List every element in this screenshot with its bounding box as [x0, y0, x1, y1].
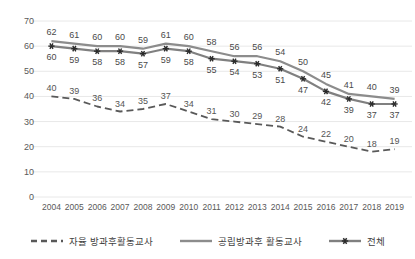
y-axis-tick-label: 40	[10, 91, 34, 101]
data-point-label: 40	[41, 83, 61, 93]
legend-label: 공립방과후 활동교사	[218, 234, 302, 248]
legend-swatch-icon	[30, 235, 64, 247]
series-marker	[94, 48, 100, 53]
data-point-label: 59	[133, 35, 153, 45]
data-point-label: 24	[293, 124, 313, 134]
series-marker	[48, 43, 54, 48]
data-point-label: 47	[293, 85, 313, 95]
data-point-label: 60	[41, 52, 61, 62]
series-marker	[254, 61, 260, 66]
series-marker	[163, 46, 169, 51]
series-marker	[391, 101, 397, 106]
data-point-label: 57	[133, 60, 153, 70]
legend-item[interactable]: 자율 방과후활동교사	[30, 234, 153, 248]
legend-label: 자율 방과후활동교사	[69, 234, 153, 248]
data-point-label: 18	[362, 139, 382, 149]
y-axis-tick-label: 20	[10, 142, 34, 152]
y-axis-tick-label: 10	[10, 167, 34, 177]
series-marker	[71, 46, 77, 51]
y-axis-tick-label: 30	[10, 117, 34, 127]
data-point-label: 39	[64, 86, 84, 96]
legend-swatch-icon	[328, 235, 362, 247]
data-point-label: 62	[41, 27, 61, 37]
series-line	[51, 41, 394, 99]
y-axis-tick-label: 60	[10, 41, 34, 51]
data-point-label: 39	[385, 85, 405, 95]
data-point-label: 22	[316, 129, 336, 139]
data-point-label: 39	[339, 105, 359, 115]
data-point-label: 51	[270, 75, 290, 85]
data-point-label: 34	[110, 99, 130, 109]
data-point-label: 53	[247, 70, 267, 80]
data-point-label: 28	[270, 114, 290, 124]
series-marker	[231, 59, 237, 64]
legend-swatch-icon	[179, 235, 213, 247]
data-point-label: 37	[156, 91, 176, 101]
data-point-label: 29	[247, 111, 267, 121]
data-point-label: 31	[202, 106, 222, 116]
data-point-label: 56	[224, 42, 244, 52]
data-point-label: 34	[179, 99, 199, 109]
data-point-label: 61	[156, 30, 176, 40]
data-point-label: 35	[133, 96, 153, 106]
data-point-label: 60	[110, 32, 130, 42]
x-axis-tick-labels: 2004200520062007200820092010201120122013…	[0, 200, 415, 216]
chart-container: 010203040506070 626160605961605856565450…	[0, 0, 415, 259]
data-point-label: 58	[202, 37, 222, 47]
y-axis-tick-label: 70	[10, 16, 34, 26]
data-point-label: 59	[64, 55, 84, 65]
data-point-label: 30	[224, 109, 244, 119]
data-point-label: 60	[87, 32, 107, 42]
x-axis-tick-label: 2019	[382, 202, 408, 213]
legend-label: 전체	[367, 234, 385, 248]
data-point-label: 54	[224, 67, 244, 77]
series-marker	[369, 101, 375, 106]
data-point-label: 58	[179, 57, 199, 67]
data-point-label: 41	[339, 80, 359, 90]
data-point-label: 56	[247, 42, 267, 52]
data-point-label: 37	[385, 110, 405, 120]
data-point-label: 55	[202, 65, 222, 75]
data-point-label: 60	[179, 32, 199, 42]
series-marker	[117, 48, 123, 53]
chart-legend: 자율 방과후활동교사공립방과후 활동교사전체	[0, 226, 415, 256]
data-point-label: 54	[270, 47, 290, 57]
data-point-label: 58	[87, 57, 107, 67]
data-point-label: 45	[316, 70, 336, 80]
data-point-label: 42	[316, 97, 336, 107]
data-point-label: 37	[362, 110, 382, 120]
data-point-label: 50	[293, 57, 313, 67]
data-point-label: 61	[64, 30, 84, 40]
data-point-label: 36	[87, 93, 107, 103]
data-point-label: 58	[110, 57, 130, 67]
data-point-label: 40	[362, 82, 382, 92]
plot-area: 010203040506070 626160605961605856565450…	[0, 0, 415, 218]
legend-item[interactable]: 공립방과후 활동교사	[179, 234, 302, 248]
data-point-label: 59	[156, 55, 176, 65]
data-point-label: 19	[385, 136, 405, 146]
series-marker	[140, 51, 146, 56]
y-axis-tick-label: 50	[10, 66, 34, 76]
legend-item[interactable]: 전체	[328, 234, 385, 248]
data-point-label: 20	[339, 134, 359, 144]
